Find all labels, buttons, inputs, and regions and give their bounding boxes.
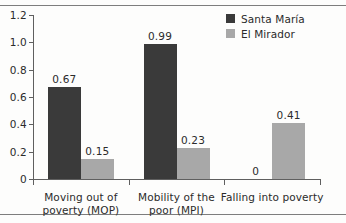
category-label-line: poor (MPI)	[138, 204, 215, 217]
x-axis-line	[33, 179, 320, 180]
dark-square-swatch-icon	[226, 14, 235, 23]
y-axis-tick-label: 0	[20, 173, 27, 185]
bar-value-label: 0.15	[85, 145, 109, 157]
y-axis-tick	[29, 124, 34, 125]
y-axis-tick-label: 0.4	[10, 118, 27, 130]
x-axis-category-label: Mobility of thepoor (MPI)	[138, 191, 215, 217]
y-axis-tick	[29, 97, 34, 98]
x-axis-tick	[129, 179, 130, 185]
bar-value-label: 0.67	[52, 73, 76, 85]
bar-value-label: 0.99	[148, 30, 172, 42]
legend-item-santa-maria: Santa María	[226, 12, 305, 25]
y-axis-tick-label: 1.2	[10, 9, 27, 21]
category-label-line: Moving out of	[42, 191, 119, 204]
legend-item-el-mirador: El Mirador	[226, 27, 305, 40]
x-axis-tick	[33, 179, 34, 185]
bar	[272, 123, 305, 179]
y-axis-tick	[29, 15, 34, 16]
bar-value-label: 0.23	[181, 134, 205, 146]
bar	[81, 159, 114, 180]
category-label-line: Mobility of the	[138, 191, 215, 204]
category-label-line: poverty (MOP)	[42, 204, 119, 217]
page-rule-top	[0, 5, 346, 6]
y-axis-tick	[29, 152, 34, 153]
gray-square-swatch-icon	[226, 29, 235, 38]
bar-chart-figure: 00.20.40.60.81.01.20.670.15Moving out of…	[0, 0, 346, 223]
chart-legend: Santa María El Mirador	[226, 12, 305, 42]
y-axis-tick-label: 0.6	[10, 91, 27, 103]
y-axis-tick	[29, 70, 34, 71]
bar	[144, 44, 177, 179]
bar-value-label: 0.41	[277, 109, 301, 121]
y-axis-tick	[29, 42, 34, 43]
legend-label: El Mirador	[241, 28, 295, 40]
x-axis-tick	[224, 179, 225, 185]
y-axis-tick-label: 0.2	[10, 146, 27, 158]
x-axis-category-label: Falling into poverty	[221, 191, 324, 204]
y-axis-tick-label: 0.8	[10, 64, 27, 76]
y-axis-tick-label: 1.0	[10, 36, 27, 48]
bar	[48, 87, 81, 179]
legend-label: Santa María	[241, 13, 305, 25]
bar-value-label: 0	[252, 165, 259, 177]
x-axis-category-label: Moving out ofpoverty (MOP)	[42, 191, 119, 217]
x-axis-tick	[320, 179, 321, 185]
category-label-line: Falling into poverty	[221, 191, 324, 204]
bar	[177, 148, 210, 179]
